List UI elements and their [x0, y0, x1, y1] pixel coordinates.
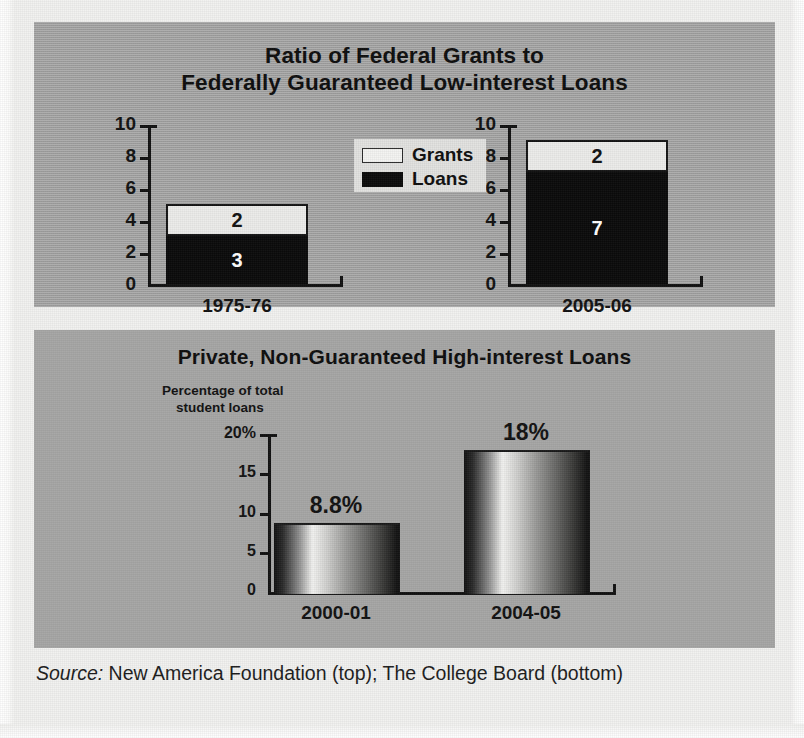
y-axis-top-cap-1975 [148, 125, 157, 128]
segment-grants-value-1975: 2 [231, 209, 242, 232]
chart-1975-76: 10 8 6 4 2 0 2 3 1975-76 [94, 117, 394, 307]
bottom-chart-panel: Private, Non-Guaranteed High-interest Lo… [34, 330, 775, 648]
top-chart-title-line1: Ratio of Federal Grants to [265, 43, 544, 68]
bottom-chart-axis-caption: Percentage of total student loans [162, 382, 284, 417]
y-tick-label-2: 2 [92, 241, 136, 263]
legend: Grants Loans [354, 139, 486, 192]
y-tick-label-0: 0 [92, 273, 136, 295]
y-axis-line-1975 [148, 125, 151, 287]
y-tick-label-0: 0 [200, 581, 256, 599]
bar-value-2004-05: 18% [464, 419, 588, 446]
segment-loans-1975: 3 [166, 236, 308, 284]
axis-caption-line2: student loans [162, 399, 284, 416]
stacked-bar-1975-76: 2 3 [166, 204, 308, 284]
y-tick-20pct [260, 434, 268, 437]
bar-value-2000-01: 8.8% [274, 492, 398, 519]
source-text: New America Foundation (top); The Colleg… [103, 662, 623, 684]
x-axis-line-2005 [508, 284, 703, 287]
y-tick-label-6: 6 [92, 177, 136, 199]
y-tick-4-2005 [500, 221, 508, 224]
y-tick-label-10: 10 [200, 503, 256, 521]
category-label-1975-76: 1975-76 [172, 295, 302, 317]
x-axis-right-cap-private [613, 584, 616, 593]
x-axis-right-cap-2005 [700, 276, 703, 285]
axis-caption-line1: Percentage of total [162, 383, 284, 398]
y-tick-label-8: 8 [92, 145, 136, 167]
segment-loans-value-1975: 3 [231, 249, 242, 272]
category-label-2005-06: 2005-06 [532, 295, 662, 317]
y-tick-8-2005 [500, 157, 508, 160]
stacked-bar-2005-06: 2 7 [526, 140, 668, 284]
bottom-chart-title: Private, Non-Guaranteed High-interest Lo… [34, 344, 775, 370]
category-label-2004-05: 2004-05 [458, 602, 594, 624]
y-tick-label-4-2005: 4 [452, 209, 496, 231]
chart-2005-06: 10 8 6 4 2 0 2 7 2005-06 [454, 117, 754, 307]
top-chart-title: Ratio of Federal Grants to Federally Gua… [34, 42, 775, 97]
bar-2004-05 [464, 450, 590, 594]
y-axis-line-private [268, 434, 271, 595]
y-tick-label-5: 5 [200, 542, 256, 560]
y-tick-6 [140, 189, 148, 192]
source-keyword: Source: [36, 662, 103, 684]
y-tick-label-20pct: 20% [200, 424, 256, 442]
x-axis-line-1975 [148, 284, 343, 287]
y-tick-2-2005 [500, 253, 508, 256]
y-tick-10 [140, 125, 148, 128]
segment-grants-1975: 2 [166, 204, 308, 236]
y-tick-label-0-2005: 0 [452, 273, 496, 295]
legend-swatch-grants-icon [362, 148, 403, 163]
legend-row-grants: Grants [362, 144, 486, 166]
y-tick-label-2-2005: 2 [452, 241, 496, 263]
scanned-page: Ratio of Federal Grants to Federally Gua… [0, 0, 804, 738]
source-line: Source: New America Foundation (top); Th… [36, 662, 623, 685]
y-axis-top-cap-2005 [508, 125, 517, 128]
y-tick-label-10: 10 [92, 113, 136, 135]
y-axis-line-2005 [508, 125, 511, 287]
y-tick-15 [260, 473, 268, 476]
legend-label-loans: Loans [412, 168, 468, 190]
page-edge-bottom [0, 724, 804, 738]
segment-loans-2005: 7 [526, 172, 668, 284]
legend-swatch-loans-icon [362, 172, 403, 187]
y-tick-label-15: 15 [200, 463, 256, 481]
top-chart-panel: Ratio of Federal Grants to Federally Gua… [34, 22, 775, 307]
segment-grants-value-2005: 2 [591, 145, 602, 168]
y-tick-10-2005 [500, 125, 508, 128]
y-tick-10 [260, 513, 268, 516]
legend-row-loans: Loans [362, 168, 486, 190]
y-tick-6-2005 [500, 189, 508, 192]
segment-grants-2005: 2 [526, 140, 668, 172]
top-chart-title-line2: Federally Guaranteed Low-interest Loans [181, 70, 628, 95]
y-tick-4 [140, 221, 148, 224]
page-edge-right [790, 0, 804, 738]
y-tick-8 [140, 157, 148, 160]
legend-label-grants: Grants [412, 144, 473, 166]
segment-loans-value-2005: 7 [591, 217, 602, 240]
y-tick-2 [140, 253, 148, 256]
y-tick-label-10-2005: 10 [452, 113, 496, 135]
y-axis-top-cap-private [268, 434, 277, 437]
bar-2000-01 [274, 523, 400, 594]
x-axis-right-cap-1975 [340, 276, 343, 285]
chart-private-loans: 20% 15 10 5 0 8.8% 2000-01 18% 2004-05 [194, 426, 754, 641]
page-edge-left [0, 0, 16, 738]
y-tick-5 [260, 552, 268, 555]
y-tick-label-4: 4 [92, 209, 136, 231]
category-label-2000-01: 2000-01 [268, 602, 404, 624]
